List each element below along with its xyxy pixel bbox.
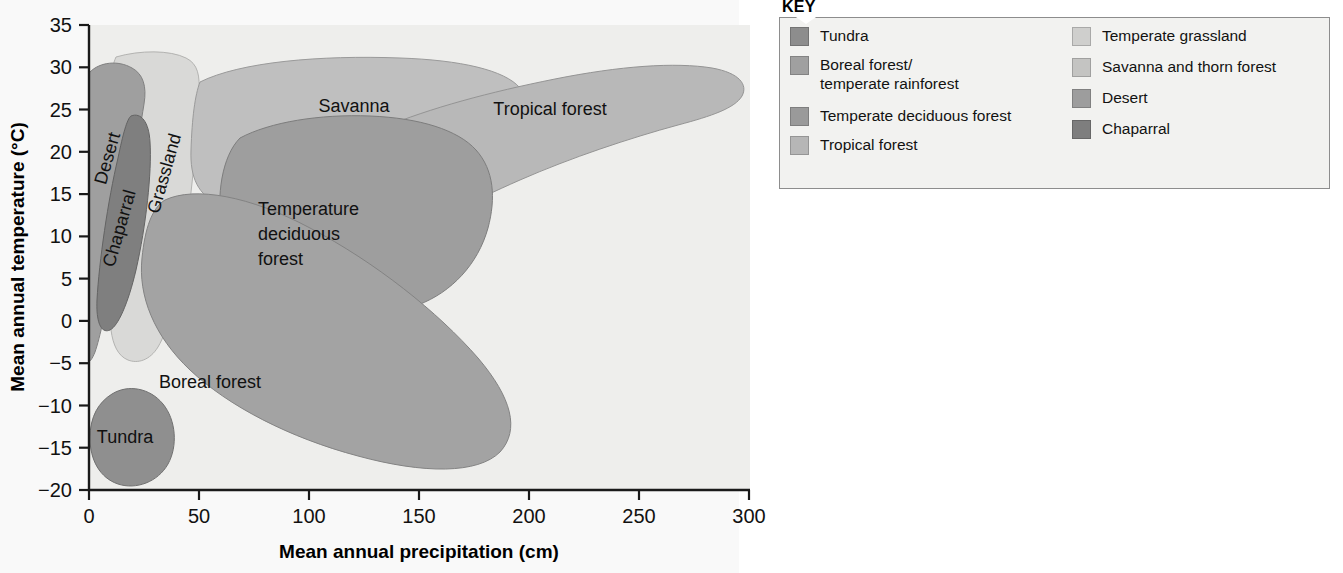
legend-swatch-desert [1072,89,1091,108]
y-tick-label: 25 [50,99,72,121]
legend-label-temperate-grassland: Temperate grassland [1102,26,1247,45]
legend-item-tundra[interactable]: Tundra [790,26,1070,46]
y-axis-title: Mean annual temperature (°C) [7,122,28,391]
y-tick-label: 15 [50,183,72,205]
legend-swatch-boreal-forest [790,56,809,75]
region-label-savanna: Savanna [318,96,390,116]
region-label-boreal-forest: Boreal forest [159,372,261,392]
x-tick-label: 250 [622,505,655,527]
y-tick-label: 5 [61,268,72,290]
legend-column-left: Tundra Boreal forest/temperate rainfores… [790,26,1070,164]
y-tick-label: 20 [50,141,72,163]
y-tick-label: −10 [38,395,72,417]
legend-item-temperate-deciduous-forest[interactable]: Temperate deciduous forest [790,106,1070,126]
y-tick-label: 10 [50,225,72,247]
legend-item-chaparral[interactable]: Chaparral [1072,119,1332,139]
legend-swatch-tundra [790,27,809,46]
y-tick-label: −5 [49,352,72,374]
x-tick-label: 200 [512,505,545,527]
legend-label-savanna: Savanna and thorn forest [1102,57,1276,76]
y-tick-label: 0 [61,310,72,332]
svg-text:Temperature: Temperature [258,199,359,219]
legend-label-tundra: Tundra [820,26,869,45]
legend-item-savanna[interactable]: Savanna and thorn forest [1072,57,1332,77]
x-axis-title: Mean annual precipitation (cm) [279,541,559,562]
legend-swatch-chaparral [1072,120,1091,139]
legend-label-boreal-forest: Boreal forest/temperate rainforest [820,55,959,94]
legend-label-tropical-forest: Tropical forest [820,135,918,154]
y-tick-labels: 35 30 25 20 15 10 5 0 −5 −10 −15 −20 [38,14,72,501]
legend-title: KEY [782,0,816,16]
region-label-tundra: Tundra [97,427,154,447]
x-tick-labels: 0 50 100 150 200 250 300 [83,505,765,527]
x-tick-label: 0 [83,505,94,527]
x-tick-label: 300 [732,505,765,527]
legend-item-desert[interactable]: Desert [1072,88,1332,108]
legend-swatch-savanna [1072,58,1091,77]
legend-swatch-temperate-grassland [1072,27,1091,46]
y-tick-label: −20 [38,479,72,501]
x-tick-label: 50 [188,505,210,527]
legend-swatch-tropical-forest [790,136,809,155]
legend-swatch-temperate-deciduous-forest [790,107,809,126]
svg-text:deciduous: deciduous [258,224,340,244]
legend-item-tropical-forest[interactable]: Tropical forest [790,135,1070,155]
legend-label-temperate-deciduous-forest: Temperate deciduous forest [820,106,1011,125]
legend-item-temperate-grassland[interactable]: Temperate grassland [1072,26,1332,46]
region-label-tropical-forest: Tropical forest [493,99,606,119]
svg-text:forest: forest [258,249,303,269]
y-tick-label: −15 [38,437,72,459]
legend-column-right: Temperate grassland Savanna and thorn fo… [1072,26,1332,150]
y-tick-label: 35 [50,14,72,36]
x-tick-label: 100 [292,505,325,527]
legend-label-desert: Desert [1102,88,1148,107]
legend-item-boreal-forest[interactable]: Boreal forest/temperate rainforest [790,55,1070,94]
whittaker-biome-figure: 35 30 25 20 15 10 5 0 −5 −10 −15 −20 0 5… [0,0,1343,573]
legend-label-chaparral: Chaparral [1102,119,1170,138]
y-tick-label: 30 [50,56,72,78]
x-tick-label: 150 [402,505,435,527]
